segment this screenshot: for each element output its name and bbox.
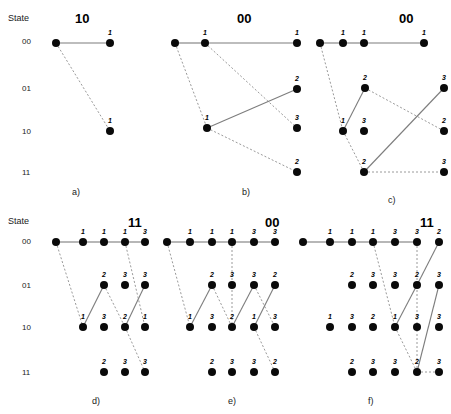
graph-node[interactable] bbox=[369, 281, 377, 289]
graph-node[interactable] bbox=[250, 323, 258, 331]
graph-node[interactable] bbox=[420, 39, 428, 47]
edge-dashed bbox=[373, 242, 395, 327]
graph-node[interactable] bbox=[348, 368, 356, 376]
graph-node[interactable] bbox=[121, 323, 129, 331]
graph-node[interactable] bbox=[326, 238, 334, 246]
node-label: 2 bbox=[230, 313, 234, 320]
graph-node[interactable] bbox=[413, 281, 421, 289]
graph-node[interactable] bbox=[106, 127, 114, 135]
graph-node[interactable] bbox=[435, 368, 443, 376]
graph-node[interactable] bbox=[339, 127, 347, 135]
graph-node[interactable] bbox=[391, 323, 399, 331]
trellis-graph-layer bbox=[0, 0, 451, 414]
state-label-01-top: 01 bbox=[22, 84, 31, 93]
node-label: 1 bbox=[102, 228, 106, 235]
graph-node[interactable] bbox=[369, 238, 377, 246]
node-label: 3 bbox=[143, 271, 147, 278]
graph-node[interactable] bbox=[79, 238, 87, 246]
graph-node[interactable] bbox=[435, 323, 443, 331]
node-label: 2 bbox=[273, 358, 277, 365]
graph-node[interactable] bbox=[100, 323, 108, 331]
edge-dashed bbox=[175, 43, 207, 128]
graph-node[interactable] bbox=[339, 39, 347, 47]
graph-node[interactable] bbox=[121, 238, 129, 246]
graph-node[interactable] bbox=[271, 368, 279, 376]
graph-node[interactable] bbox=[228, 238, 236, 246]
graph-node[interactable] bbox=[361, 84, 369, 92]
graph-node[interactable] bbox=[186, 238, 194, 246]
graph-node[interactable] bbox=[299, 238, 307, 246]
graph-node[interactable] bbox=[293, 39, 301, 47]
graph-node[interactable] bbox=[413, 323, 421, 331]
graph-node[interactable] bbox=[208, 281, 216, 289]
graph-node[interactable] bbox=[435, 281, 443, 289]
graph-node[interactable] bbox=[413, 238, 421, 246]
node-label: 1 bbox=[143, 313, 147, 320]
node-label: 2 bbox=[210, 271, 214, 278]
panel-caption-f: f) bbox=[368, 396, 374, 406]
graph-node[interactable] bbox=[121, 281, 129, 289]
graph-node[interactable] bbox=[391, 238, 399, 246]
graph-node[interactable] bbox=[250, 368, 258, 376]
graph-node[interactable] bbox=[360, 127, 368, 135]
node-label: 1 bbox=[328, 228, 332, 235]
graph-node[interactable] bbox=[348, 281, 356, 289]
graph-node[interactable] bbox=[391, 368, 399, 376]
panel-title-c: 00 bbox=[399, 11, 413, 26]
graph-node[interactable] bbox=[141, 323, 149, 331]
graph-node[interactable] bbox=[228, 368, 236, 376]
graph-node[interactable] bbox=[52, 238, 60, 246]
graph-node[interactable] bbox=[208, 368, 216, 376]
graph-node[interactable] bbox=[348, 323, 356, 331]
panel-title-a: 10 bbox=[75, 11, 89, 26]
graph-node[interactable] bbox=[348, 238, 356, 246]
edge-solid bbox=[417, 285, 439, 372]
graph-node[interactable] bbox=[440, 84, 448, 92]
graph-node[interactable] bbox=[203, 124, 211, 132]
graph-node[interactable] bbox=[413, 368, 421, 376]
graph-node[interactable] bbox=[440, 168, 448, 176]
graph-node[interactable] bbox=[391, 281, 399, 289]
graph-node[interactable] bbox=[369, 323, 377, 331]
edge-dashed bbox=[167, 242, 190, 327]
graph-node[interactable] bbox=[360, 39, 368, 47]
graph-node[interactable] bbox=[201, 39, 209, 47]
graph-node[interactable] bbox=[293, 85, 301, 93]
graph-node[interactable] bbox=[293, 124, 301, 132]
graph-node[interactable] bbox=[171, 39, 179, 47]
graph-node[interactable] bbox=[141, 368, 149, 376]
edge-solid bbox=[125, 285, 145, 327]
graph-node[interactable] bbox=[106, 39, 114, 47]
graph-node[interactable] bbox=[316, 39, 324, 47]
graph-node[interactable] bbox=[163, 238, 171, 246]
graph-node[interactable] bbox=[100, 281, 108, 289]
graph-node[interactable] bbox=[228, 281, 236, 289]
graph-node[interactable] bbox=[440, 127, 448, 135]
graph-node[interactable] bbox=[271, 323, 279, 331]
graph-node[interactable] bbox=[208, 323, 216, 331]
graph-node[interactable] bbox=[293, 168, 301, 176]
graph-node[interactable] bbox=[228, 323, 236, 331]
graph-node[interactable] bbox=[250, 238, 258, 246]
graph-node[interactable] bbox=[141, 281, 149, 289]
node-label: 2 bbox=[442, 117, 446, 124]
node-label: 3 bbox=[437, 271, 441, 278]
graph-node[interactable] bbox=[100, 238, 108, 246]
graph-node[interactable] bbox=[141, 238, 149, 246]
graph-node[interactable] bbox=[186, 323, 194, 331]
graph-node[interactable] bbox=[271, 238, 279, 246]
graph-node[interactable] bbox=[52, 39, 60, 47]
graph-node[interactable] bbox=[360, 168, 368, 176]
graph-node[interactable] bbox=[271, 281, 279, 289]
node-label: 1 bbox=[108, 117, 112, 124]
graph-node[interactable] bbox=[326, 323, 334, 331]
graph-node[interactable] bbox=[121, 368, 129, 376]
graph-node[interactable] bbox=[250, 281, 258, 289]
graph-node[interactable] bbox=[369, 368, 377, 376]
graph-node[interactable] bbox=[208, 238, 216, 246]
graph-node[interactable] bbox=[100, 368, 108, 376]
graph-node[interactable] bbox=[79, 323, 87, 331]
state-axis-caption-top: State bbox=[8, 13, 29, 23]
graph-node[interactable] bbox=[435, 238, 443, 246]
node-label: 1 bbox=[295, 29, 299, 36]
